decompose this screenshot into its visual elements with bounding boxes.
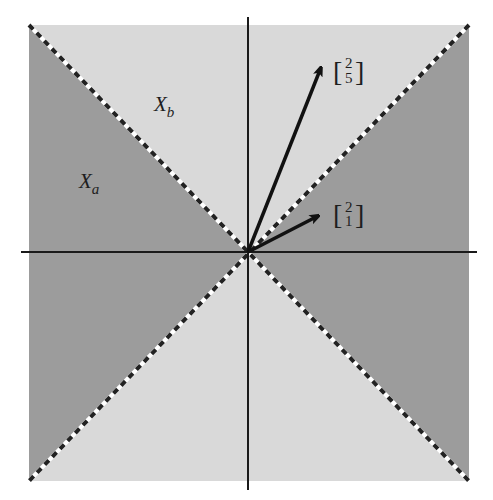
component-bottom: 1 — [345, 213, 353, 229]
bracket-left: [ — [333, 199, 342, 230]
vector-label-2-1: [ 2 1 ] — [333, 199, 364, 230]
component-top: 2 — [345, 55, 353, 71]
vector-label-2-5: [ 2 5 ] — [333, 55, 364, 87]
bracket-right: ] — [355, 199, 364, 230]
bracket-left: [ — [333, 56, 342, 87]
bracket-right: ] — [355, 56, 364, 87]
diagram-canvas: Xb Xa [ 2 5 ] [ 2 1 ] — [0, 0, 493, 500]
component-bottom: 5 — [345, 70, 353, 86]
